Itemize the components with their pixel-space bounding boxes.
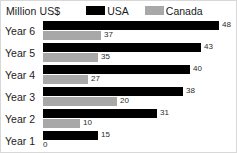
bar-value-usa: 15 <box>101 130 110 140</box>
chart-row: Year 4 40 27 <box>1 64 236 86</box>
chart-header: Million US$ USA Canada <box>1 1 236 20</box>
chart-row: Year 1 15 0 <box>1 130 236 152</box>
row-bars: 38 20 <box>43 86 236 108</box>
chart-title: Million US$ <box>6 5 60 17</box>
bar-line-canada: 10 <box>43 119 236 128</box>
row-bars: 48 37 <box>43 20 236 42</box>
bar-usa <box>43 43 201 52</box>
bar-usa <box>43 21 219 30</box>
bar-usa <box>43 131 98 140</box>
bar-canada <box>43 31 101 40</box>
bar-line-canada: 27 <box>43 75 236 84</box>
category-label: Year 1 <box>5 130 35 152</box>
bar-line-usa: 38 <box>43 87 236 96</box>
bar-canada <box>43 97 117 106</box>
bar-canada <box>43 119 80 128</box>
bar-value-canada: 0 <box>43 140 47 150</box>
bar-line-usa: 43 <box>43 43 236 52</box>
bar-line-usa: 40 <box>43 65 236 74</box>
bar-value-canada: 37 <box>104 30 113 40</box>
chart-row: Year 3 38 20 <box>1 86 236 108</box>
bar-usa <box>43 109 157 118</box>
bar-line-usa: 31 <box>43 109 236 118</box>
legend-label-canada: Canada <box>166 5 203 17</box>
bar-canada <box>43 75 88 84</box>
legend-swatch-canada <box>145 6 164 15</box>
chart-row: Year 5 43 35 <box>1 42 236 64</box>
bar-value-canada: 20 <box>120 96 129 106</box>
category-label: Year 5 <box>5 42 35 64</box>
row-bars: 43 35 <box>43 42 236 64</box>
bar-chart: Million US$ USA Canada Year 6 48 <box>0 0 237 153</box>
bar-usa <box>43 87 183 96</box>
bar-line-canada: 0 <box>43 141 236 150</box>
bar-canada <box>43 53 98 62</box>
bar-value-usa: 43 <box>204 42 213 52</box>
chart-legend: USA Canada <box>86 5 202 17</box>
legend-swatch-usa <box>86 6 105 15</box>
category-label: Year 4 <box>5 64 35 86</box>
row-bars: 31 10 <box>43 108 236 130</box>
bar-line-canada: 37 <box>43 31 236 40</box>
bar-value-canada: 35 <box>101 52 110 62</box>
row-bars: 15 0 <box>43 130 236 152</box>
bar-value-canada: 27 <box>91 74 100 84</box>
category-label: Year 6 <box>5 20 35 42</box>
legend-item-canada: Canada <box>145 5 203 17</box>
category-label: Year 2 <box>5 108 35 130</box>
plot-area: Year 6 48 37 Year 5 43 <box>1 20 236 152</box>
legend-label-usa: USA <box>107 5 129 17</box>
bar-line-usa: 48 <box>43 21 236 30</box>
bar-value-usa: 38 <box>186 86 195 96</box>
legend-item-usa: USA <box>86 5 129 17</box>
chart-row: Year 6 48 37 <box>1 20 236 42</box>
bar-value-usa: 31 <box>160 108 169 118</box>
bar-usa <box>43 65 190 74</box>
bar-line-canada: 35 <box>43 53 236 62</box>
bar-line-canada: 20 <box>43 97 236 106</box>
category-label: Year 3 <box>5 86 35 108</box>
chart-row: Year 2 31 10 <box>1 108 236 130</box>
bar-value-canada: 10 <box>83 118 92 128</box>
row-bars: 40 27 <box>43 64 236 86</box>
bar-value-usa: 40 <box>193 64 202 74</box>
bar-line-usa: 15 <box>43 131 236 140</box>
bar-value-usa: 48 <box>222 20 231 30</box>
